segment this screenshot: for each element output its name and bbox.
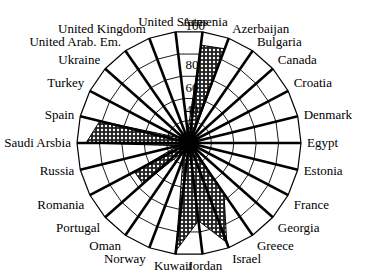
- category-label: Ukraine: [58, 52, 100, 67]
- category-label: Georgia: [278, 220, 320, 235]
- category-label: Bulgaria: [257, 34, 302, 49]
- category-label: Croatia: [294, 75, 332, 90]
- category-label: Norway: [104, 251, 146, 266]
- category-label: Spain: [45, 107, 75, 122]
- category-label: Estonia: [304, 163, 343, 178]
- category-label: Canada: [278, 52, 317, 67]
- tick-label: 40: [186, 102, 199, 117]
- tick-label: 80: [186, 57, 199, 72]
- category-label: Oman: [89, 238, 121, 253]
- category-label: Denmark: [304, 107, 353, 122]
- category-label: Romania: [37, 197, 84, 212]
- category-label: Russia: [40, 163, 75, 178]
- category-label: Kuwait: [154, 258, 193, 273]
- center-hub: [180, 134, 198, 152]
- category-label: Greece: [257, 238, 294, 253]
- radar-chart-svg: 406080100 ArmeniaAzerbaijanBulgariaCanad…: [0, 0, 369, 280]
- tick-label: 60: [186, 80, 199, 95]
- category-label: Portugal: [56, 220, 100, 235]
- category-label: France: [294, 197, 330, 212]
- category-label: Turkey: [47, 75, 85, 90]
- category-label: Israel: [232, 251, 261, 266]
- category-label: Saudi Arsbia: [4, 135, 71, 150]
- category-label: Jordan: [188, 258, 223, 273]
- category-label: United Arab. Em.: [29, 34, 121, 49]
- radar-chart: 406080100 ArmeniaAzerbaijanBulgariaCanad…: [0, 0, 369, 280]
- category-label: Egypt: [307, 135, 338, 150]
- category-label: United States: [138, 14, 208, 29]
- category-label: United Kingdom: [58, 21, 146, 36]
